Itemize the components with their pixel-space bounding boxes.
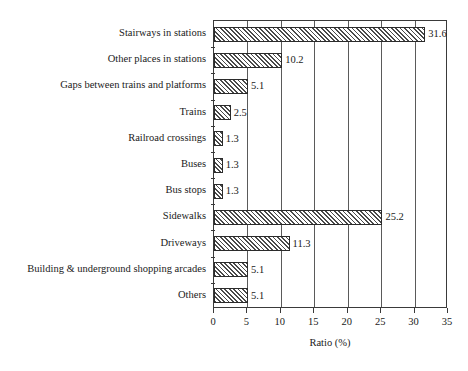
y-axis-tick (211, 257, 215, 258)
bar (214, 262, 248, 277)
x-axis-tick (213, 308, 214, 313)
category-axis-labels: Stairways in stationsOther places in sta… (0, 20, 206, 308)
x-axis-tick-labels: 05101520253035 (163, 315, 468, 329)
y-axis-tick (211, 230, 215, 231)
bar (214, 79, 248, 94)
bar-value-label: 1.3 (226, 159, 239, 171)
bar-value-label: 5.1 (251, 80, 264, 92)
bar-value-label: 5.1 (251, 264, 264, 276)
category-label: Others (0, 289, 206, 301)
y-axis-tick (211, 204, 215, 205)
bar-value-label: 1.3 (226, 185, 239, 197)
y-axis-tick (211, 73, 215, 74)
bar-value-label: 5.1 (251, 290, 264, 302)
category-label: Bus stops (0, 184, 206, 196)
bar (214, 236, 290, 251)
category-label: Gaps between trains and platforms (0, 79, 206, 91)
bar (214, 184, 223, 199)
y-axis-tick (211, 126, 215, 127)
bar-value-label: 31.6 (428, 28, 446, 40)
bar (214, 131, 223, 146)
bar (214, 105, 231, 120)
category-label: Buses (0, 158, 206, 170)
category-label: Driveways (0, 237, 206, 249)
x-axis-tick-label: 35 (427, 315, 467, 328)
bar-chart: Stairways in stationsOther places in sta… (0, 0, 468, 371)
bar (214, 288, 248, 303)
bar-value-label: 25.2 (385, 211, 403, 223)
x-axis-tick-marks (213, 308, 447, 314)
x-axis-tick (313, 308, 314, 313)
x-axis-tick (280, 308, 281, 313)
category-label: Other places in stations (0, 53, 206, 65)
bar-value-label: 2.5 (234, 107, 247, 119)
bar-value-label: 10.2 (285, 54, 303, 66)
bar-value-label: 11.3 (293, 238, 311, 250)
category-label: Trains (0, 106, 206, 118)
bar (214, 27, 425, 42)
x-axis-tick (414, 308, 415, 313)
y-axis-tick (211, 283, 215, 284)
x-axis-tick (347, 308, 348, 313)
bar-value-label: 1.3 (226, 133, 239, 145)
y-axis-tick (211, 100, 215, 101)
category-label: Railroad crossings (0, 132, 206, 144)
bar (214, 53, 282, 68)
category-label: Building & underground shopping arcades (0, 263, 206, 275)
x-axis-tick (380, 308, 381, 313)
y-axis-tick (211, 47, 215, 48)
bar (214, 158, 223, 173)
bars-layer: 31.610.25.12.51.31.31.325.211.35.15.1 (214, 21, 446, 307)
bar (214, 210, 382, 225)
category-label: Sidewalks (0, 210, 206, 222)
plot-area: 31.610.25.12.51.31.31.325.211.35.15.1 (213, 20, 447, 308)
x-axis-tick (246, 308, 247, 313)
y-axis-tick (211, 152, 215, 153)
y-axis-tick (211, 178, 215, 179)
x-axis-tick (447, 308, 448, 313)
category-label: Stairways in stations (0, 27, 206, 39)
x-axis-title: Ratio (%) (213, 336, 447, 349)
